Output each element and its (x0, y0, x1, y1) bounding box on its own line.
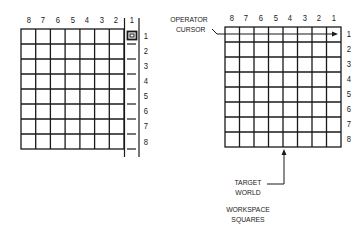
left-col-label: 4 (83, 15, 92, 25)
right-col-label: 4 (286, 13, 295, 23)
left-col-label: 6 (54, 15, 63, 25)
diagram-lines (0, 0, 364, 240)
operator-cursor-label: OPERATOR CURSOR (168, 15, 211, 35)
right-col-label: 3 (301, 13, 310, 23)
operator-cursor-arrow (212, 29, 334, 34)
right-row-label: 2 (346, 44, 353, 54)
right-row-label: 4 (346, 74, 353, 84)
target-label-line2: WORLD (229, 188, 266, 198)
operator-label-line1: OPERATOR (168, 15, 211, 25)
left-cursor-column (125, 18, 140, 157)
left-col-label: 5 (69, 15, 78, 25)
target-label-line1: TARGET (229, 178, 266, 188)
right-col-label: 2 (315, 13, 324, 23)
left-col-label: 8 (25, 15, 34, 25)
left-row-label: 8 (143, 137, 150, 147)
left-col-label: 3 (98, 15, 107, 25)
left-col-label: 7 (39, 15, 48, 25)
operator-cursor-arrowhead (332, 32, 338, 37)
target-world-arrowhead (282, 149, 287, 155)
target-world-label: TARGET WORLD (229, 178, 266, 198)
left-row-label: 2 (143, 46, 150, 56)
left-col-label: 1 (128, 15, 137, 25)
right-row-label: 1 (346, 29, 353, 39)
right-col-label: 5 (272, 13, 281, 23)
left-row-label: 5 (143, 91, 150, 101)
right-col-label: 7 (242, 13, 251, 23)
workspace-label-line2: SQUARES (226, 215, 270, 225)
right-col-label: 8 (228, 13, 237, 23)
right-row-label: 6 (346, 104, 353, 114)
right-row-label: 7 (346, 119, 353, 129)
right-row-label: 5 (346, 89, 353, 99)
left-row-label: 7 (143, 121, 150, 131)
right-row-label: 3 (346, 59, 353, 69)
operator-label-line2: CURSOR (168, 25, 211, 35)
right-col-label: 6 (257, 13, 266, 23)
workspace-label-line1: WORKSPACE (226, 205, 270, 215)
right-grid (225, 27, 341, 147)
left-row-label: 4 (143, 76, 150, 86)
right-row-label: 8 (346, 134, 353, 144)
left-row-label: 3 (143, 61, 150, 71)
right-col-label: 1 (330, 13, 339, 23)
left-grid (21, 29, 124, 149)
workspace-squares-label: WORKSPACE SQUARES (226, 205, 270, 225)
left-row-label: 6 (143, 106, 150, 116)
left-col-label: 2 (112, 15, 121, 25)
left-row-label: 1 (143, 31, 150, 41)
target-world-arrow (267, 153, 284, 184)
